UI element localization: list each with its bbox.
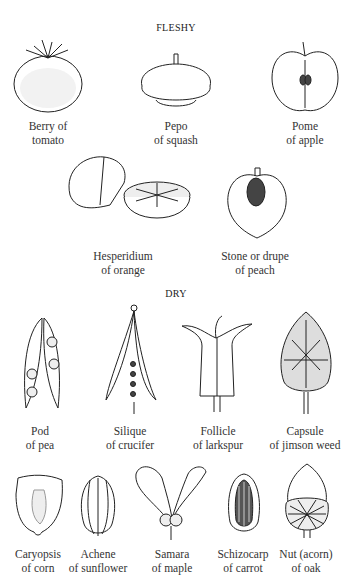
label-pea: Pod of pea — [0, 425, 88, 452]
orange-illustration — [64, 155, 194, 235]
label-line2: of oak — [258, 562, 352, 576]
carrot-schizocarp-illustration — [226, 472, 262, 538]
label-line2: of peach — [207, 264, 303, 278]
label-line1: Follicle — [170, 425, 266, 439]
acorn-illustration — [284, 460, 330, 540]
label-line2: of squash — [128, 134, 224, 148]
label-line2: of crucifer — [82, 439, 178, 453]
section-heading-fleshy: FLESHY — [136, 22, 216, 33]
label-apple: Pome of apple — [257, 120, 352, 147]
label-tomato: Berry of tomato — [0, 120, 96, 147]
label-larkspur: Follicle of larkspur — [170, 425, 266, 452]
label-line1: Silique — [82, 425, 178, 439]
label-line1: Pome — [257, 120, 352, 134]
label-oak: Nut (acorn) of oak — [258, 548, 352, 575]
label-line1: Stone or drupe — [207, 250, 303, 264]
label-line1: Berry of — [0, 120, 96, 134]
label-line1: Hesperidium — [75, 250, 171, 264]
larkspur-follicle-illustration — [180, 312, 254, 412]
label-squash: Pepo of squash — [128, 120, 224, 147]
label-line1: Nut (acorn) — [258, 548, 352, 562]
silique-illustration — [104, 304, 158, 414]
label-crucifer: Silique of crucifer — [82, 425, 178, 452]
tomato-illustration — [12, 38, 84, 114]
pea-pod-illustration — [20, 312, 64, 412]
maple-samara-illustration — [134, 462, 210, 540]
label-line2: of orange — [75, 264, 171, 278]
label-line1: Capsule — [257, 425, 352, 439]
label-line2: of larkspur — [170, 439, 266, 453]
peach-illustration — [226, 168, 288, 240]
label-line1: Pod — [0, 425, 88, 439]
sunflower-achene-illustration — [78, 474, 118, 540]
jimson-capsule-illustration — [276, 310, 336, 414]
label-line2: tomato — [0, 134, 96, 148]
label-line2: of jimson weed — [257, 439, 352, 453]
label-peach: Stone or drupe of peach — [207, 250, 303, 277]
label-jimson: Capsule of jimson weed — [257, 425, 352, 452]
label-line1: Pepo — [128, 120, 224, 134]
label-orange: Hesperidium of orange — [75, 250, 171, 277]
label-line2: of apple — [257, 134, 352, 148]
corn-kernel-illustration — [14, 474, 64, 538]
apple-illustration — [270, 40, 340, 116]
label-line2: of pea — [0, 439, 88, 453]
squash-illustration — [138, 52, 214, 112]
section-heading-dry: DRY — [136, 288, 216, 299]
